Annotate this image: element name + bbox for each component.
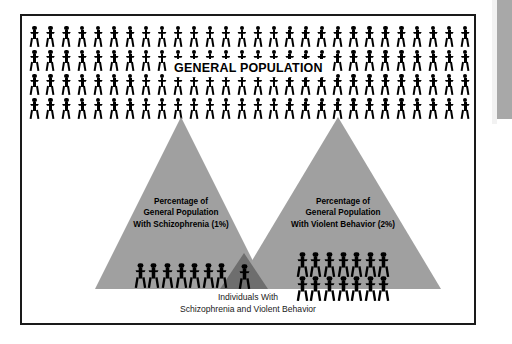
person-icon	[94, 50, 103, 71]
person-icon	[349, 74, 358, 95]
person-icon	[174, 26, 183, 47]
person-icon	[221, 26, 230, 47]
infographic-stage: GENERAL POPULATION Percentage of General…	[0, 0, 512, 344]
person-icon	[285, 74, 294, 95]
person-icon	[333, 98, 342, 119]
person-icon	[46, 50, 55, 71]
person-icon	[221, 74, 230, 95]
person-icon	[397, 74, 406, 95]
person-icon	[94, 98, 103, 119]
person-icon	[445, 98, 454, 119]
person-icon	[253, 74, 262, 95]
person-icon	[126, 50, 135, 71]
person-icon	[301, 50, 310, 71]
person-icon	[126, 26, 135, 47]
person-icon	[349, 98, 358, 119]
person-icon	[381, 74, 390, 95]
person-icon	[413, 74, 422, 95]
person-icon	[365, 50, 374, 71]
person-icon	[205, 74, 214, 95]
page-edge-strip	[497, 0, 512, 119]
person-icon	[429, 50, 438, 71]
person-icon	[429, 26, 438, 47]
person-icon	[365, 98, 374, 119]
person-icon	[317, 50, 326, 71]
overlap-triangle	[220, 253, 268, 289]
person-icon	[94, 26, 103, 47]
person-icon	[301, 98, 310, 119]
person-icon	[237, 74, 246, 95]
person-icon	[317, 98, 326, 119]
person-icon	[205, 26, 214, 47]
person-icon	[94, 74, 103, 95]
person-icon	[221, 98, 230, 119]
general-population-row	[30, 50, 470, 74]
person-icon	[78, 26, 87, 47]
person-icon	[142, 74, 151, 95]
person-icon	[30, 50, 39, 71]
person-icon	[381, 50, 390, 71]
person-icon	[301, 74, 310, 95]
person-icon	[301, 26, 310, 47]
person-icon	[30, 98, 39, 119]
person-icon	[333, 74, 342, 95]
person-icon	[110, 26, 119, 47]
person-icon	[142, 50, 151, 71]
person-icon	[158, 98, 167, 119]
person-icon	[397, 26, 406, 47]
person-icon	[445, 50, 454, 71]
person-icon	[46, 74, 55, 95]
person-icon	[174, 50, 183, 71]
person-icon	[78, 98, 87, 119]
person-icon	[269, 26, 278, 47]
person-icon	[461, 50, 470, 71]
person-icon	[190, 74, 199, 95]
person-icon	[253, 98, 262, 119]
person-icon	[381, 26, 390, 47]
person-icon	[62, 26, 71, 47]
person-icon	[413, 26, 422, 47]
person-icon	[190, 50, 199, 71]
person-icon	[253, 50, 262, 71]
person-icon	[174, 74, 183, 95]
person-icon	[237, 50, 246, 71]
person-icon	[62, 74, 71, 95]
person-icon	[285, 98, 294, 119]
person-icon	[333, 26, 342, 47]
caption-line-2: Schizophrenia and Violent Behavior	[22, 304, 474, 316]
person-icon	[158, 74, 167, 95]
person-icon	[142, 98, 151, 119]
person-icon	[46, 98, 55, 119]
person-icon	[174, 98, 183, 119]
person-icon	[397, 98, 406, 119]
person-icon	[190, 98, 199, 119]
figure-panel: GENERAL POPULATION Percentage of General…	[20, 14, 476, 325]
person-icon	[126, 74, 135, 95]
person-icon	[445, 26, 454, 47]
person-icon	[46, 26, 55, 47]
person-icon	[237, 26, 246, 47]
person-icon	[110, 74, 119, 95]
person-icon	[429, 98, 438, 119]
person-icon	[349, 50, 358, 71]
person-icon	[62, 50, 71, 71]
person-icon	[205, 98, 214, 119]
person-icon	[365, 26, 374, 47]
caption-line-1: Individuals With	[22, 292, 474, 304]
general-population-grid	[30, 26, 470, 122]
person-icon	[365, 74, 374, 95]
person-icon	[333, 50, 342, 71]
person-icon	[413, 50, 422, 71]
person-icon	[349, 26, 358, 47]
person-icon	[461, 26, 470, 47]
person-icon	[158, 26, 167, 47]
person-icon	[413, 98, 422, 119]
general-population-row	[30, 26, 470, 50]
person-icon	[126, 98, 135, 119]
person-icon	[253, 26, 262, 47]
person-icon	[205, 50, 214, 71]
person-icon	[221, 50, 230, 71]
person-icon	[445, 74, 454, 95]
person-icon	[237, 98, 246, 119]
person-icon	[142, 26, 151, 47]
